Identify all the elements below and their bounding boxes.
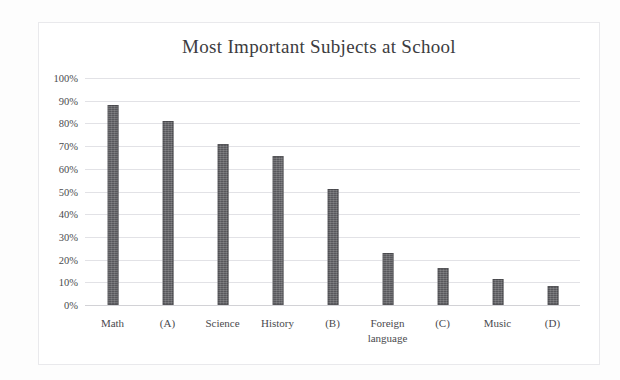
- bar-slot: Math: [85, 78, 140, 305]
- y-axis-tick-label: 50%: [59, 186, 78, 197]
- bar: [327, 189, 338, 305]
- bar: [162, 121, 173, 305]
- y-axis-tick-label: 10%: [59, 277, 78, 288]
- bar: [437, 268, 448, 305]
- plot-area: 100%90%80%70%60%50%40%30%20%10%0% Math(A…: [85, 78, 580, 305]
- y-axis-tick-label: 60%: [59, 163, 78, 174]
- x-axis-tick-label: Foreign language: [368, 316, 408, 346]
- x-axis-tick-label: (D): [545, 316, 560, 331]
- bar: [492, 279, 503, 305]
- bar-slot: (B): [305, 78, 360, 305]
- bar: [547, 286, 558, 305]
- x-axis-tick-label: (B): [325, 316, 340, 331]
- bar-slot: Foreign language: [360, 78, 415, 305]
- x-axis-tick-label: Math: [101, 316, 124, 331]
- y-axis-tick-label: 90%: [59, 95, 78, 106]
- bars-group: Math(A)ScienceHistory(B)Foreign language…: [85, 78, 580, 305]
- bar-slot: (A): [140, 78, 195, 305]
- bar: [217, 144, 228, 305]
- y-axis-tick-label: 20%: [59, 254, 78, 265]
- bar-slot: Science: [195, 78, 250, 305]
- bar-chart-figure: Most Important Subjects at School 100%90…: [0, 0, 620, 380]
- chart-title: Most Important Subjects at School: [38, 36, 600, 58]
- bar-slot: (D): [525, 78, 580, 305]
- bar: [107, 105, 118, 305]
- y-axis-tick-label: 0%: [64, 300, 78, 311]
- gridline: 0%: [85, 305, 580, 306]
- bar: [382, 253, 393, 305]
- y-axis-tick-label: 30%: [59, 231, 78, 242]
- x-axis-tick-label: (C): [435, 316, 450, 331]
- bar-slot: Music: [470, 78, 525, 305]
- y-axis-tick-label: 100%: [54, 73, 79, 84]
- x-axis-tick-label: Science: [205, 316, 239, 331]
- bar: [272, 156, 283, 305]
- y-axis-tick-label: 70%: [59, 141, 78, 152]
- bar-slot: History: [250, 78, 305, 305]
- y-axis-tick-label: 40%: [59, 209, 78, 220]
- x-axis-tick-label: (A): [160, 316, 175, 331]
- x-axis-tick-label: History: [261, 316, 294, 331]
- y-axis-tick-label: 80%: [59, 118, 78, 129]
- x-axis-tick-label: Music: [484, 316, 512, 331]
- bar-slot: (C): [415, 78, 470, 305]
